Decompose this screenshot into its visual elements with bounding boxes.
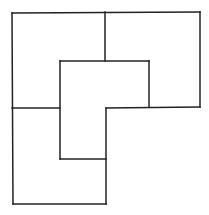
dissection-diagram bbox=[0, 0, 209, 215]
diagram-canvas bbox=[0, 0, 209, 215]
edge-line bbox=[106, 107, 200, 108]
edge-line bbox=[12, 12, 200, 13]
